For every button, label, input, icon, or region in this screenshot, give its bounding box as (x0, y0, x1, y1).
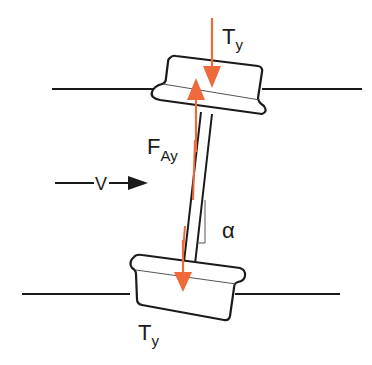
bottom-force-label: Ty (138, 320, 159, 349)
top-block (152, 56, 266, 114)
diagram-canvas: Ty FAy V α Ty (0, 0, 372, 365)
velocity-label: V (95, 174, 107, 194)
bottom-block (130, 255, 245, 320)
force-arrow-axial-up (187, 78, 205, 200)
angle-label: α (222, 218, 235, 243)
axial-force-label: FAy (147, 134, 178, 164)
top-force-label: Ty (222, 24, 243, 53)
connecting-rod (184, 112, 212, 264)
